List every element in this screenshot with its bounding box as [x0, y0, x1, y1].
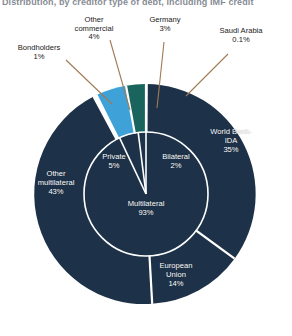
callout-germany-value: 3%	[134, 25, 196, 34]
label-other-multilateral-value: 43%	[22, 188, 90, 197]
label-european-union-value: 14%	[142, 280, 210, 289]
callout-saudi-arabia-value: 0.1%	[204, 36, 278, 45]
callout-bondholders-value: 1%	[8, 53, 70, 62]
label-world-bank-ida-value: 35%	[198, 146, 264, 155]
callout-germany: Germany 3%	[134, 16, 196, 33]
leader-line-bondholders	[66, 60, 112, 104]
label-world-bank-ida: World Bank- IDA 35%	[198, 128, 264, 154]
chart-title: Distribution, by creditor type of debt, …	[2, 0, 254, 7]
label-private: Private 5%	[92, 153, 136, 171]
callout-bondholders: Bondholders 1%	[8, 44, 70, 61]
label-private-value: 5%	[92, 162, 136, 171]
label-bilateral-value: 2%	[152, 162, 200, 171]
label-multilateral-value: 93%	[110, 209, 182, 218]
leader-line-saudi-arabia	[186, 54, 228, 96]
callout-other-commercial: Other commercial 4%	[62, 16, 126, 42]
pie-chart-figure: Distribution, by creditor type of debt, …	[0, 0, 292, 336]
label-bilateral: Bilateral 2%	[152, 153, 200, 171]
callout-other-commercial-value: 4%	[62, 33, 126, 42]
callout-saudi-arabia: Saudi Arabia 0.1%	[204, 27, 278, 44]
label-other-multilateral: Other multilateral 43%	[22, 170, 90, 196]
chart-title-strip: Distribution, by creditor type of debt, …	[0, 0, 292, 9]
label-european-union: European Union 14%	[142, 262, 210, 288]
label-multilateral: Multilateral 93%	[110, 200, 182, 218]
